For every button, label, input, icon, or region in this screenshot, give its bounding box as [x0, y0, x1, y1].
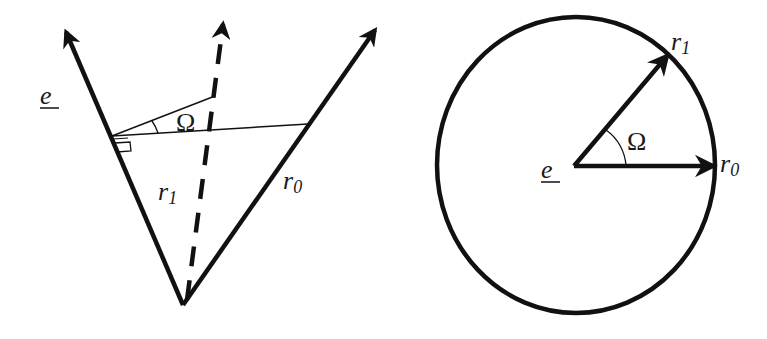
label-omega-left: Ω — [176, 108, 195, 137]
angle-arc-right — [606, 130, 626, 166]
label-r0-right: r0 — [720, 149, 739, 180]
label-e-right: e — [541, 155, 553, 184]
label-omega-right: Ω — [627, 127, 646, 156]
right-angle-tick — [113, 138, 128, 139]
diagram-canvas: e Ω r1 r0 e Ω r1 r0 — [0, 0, 767, 339]
label-r0-left: r0 — [283, 166, 302, 197]
label-r1-left: r1 — [158, 177, 177, 208]
left-panel: e Ω r1 r0 — [40, 24, 375, 305]
vector-r1-arrow-right — [574, 56, 667, 166]
label-r1-right: r1 — [671, 27, 690, 58]
angle-arc — [152, 121, 158, 133]
vector-e-arrow — [66, 32, 183, 305]
right-panel: e Ω r1 r0 — [437, 17, 739, 313]
vector-r0-arrow — [183, 30, 375, 305]
label-e-left: e — [40, 81, 52, 110]
